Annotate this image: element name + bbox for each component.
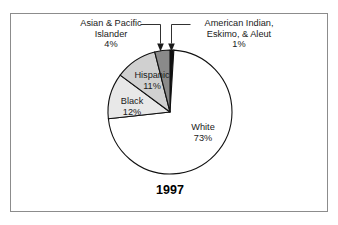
slice-label-asian-pacific-islander-line1: Asian & Pacific <box>80 18 142 28</box>
slice-label-american-indian-line2: Eskimo, & Aleut <box>207 29 272 39</box>
slice-percent-asian-pacific-islander: 4% <box>104 39 117 49</box>
leader-american-indian <box>168 25 190 52</box>
leader-line-american-indian <box>172 25 191 44</box>
slice-label-hispanic: Hispanic <box>134 70 170 80</box>
slice-percent-black: 12% <box>123 107 141 117</box>
slice-label-asian-pacific-islander-line2: Islander <box>95 29 128 39</box>
slice-percent-white: 73% <box>194 133 212 143</box>
year-caption: 1997 <box>156 183 184 197</box>
slice-percent-american-indian: 1% <box>232 39 245 49</box>
pie-chart-svg: Asian & Pacific Islander 4% American Ind… <box>0 0 338 225</box>
slice-label-black: Black <box>121 96 144 106</box>
leader-line-asian <box>141 25 161 44</box>
pie-chart-figure: Asian & Pacific Islander 4% American Ind… <box>0 0 338 225</box>
leader-asian-pacific-islander <box>141 25 164 52</box>
slice-percent-hispanic: 11% <box>143 81 161 91</box>
slice-label-american-indian-line1: American Indian, <box>205 18 274 28</box>
slice-label-white: White <box>191 122 215 132</box>
